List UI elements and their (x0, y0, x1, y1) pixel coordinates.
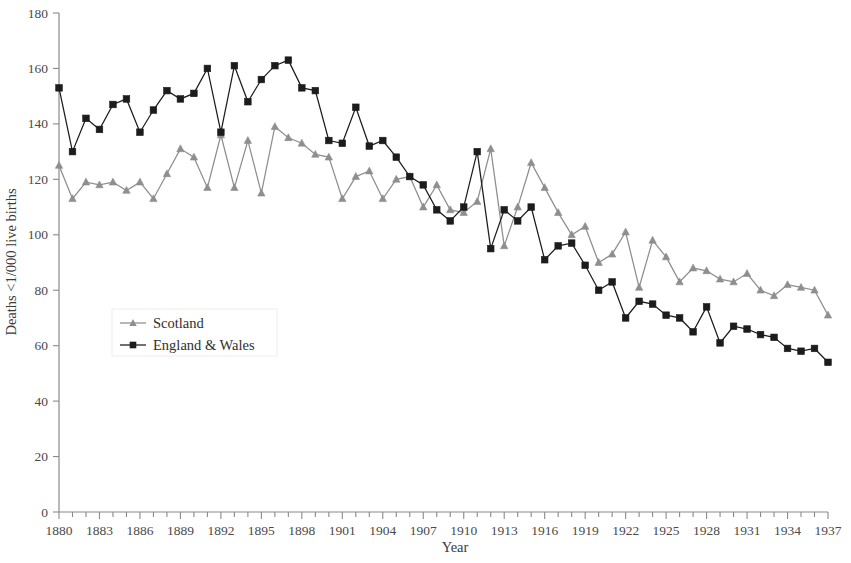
data-point (568, 231, 575, 238)
data-point (528, 204, 535, 211)
data-point (528, 159, 535, 166)
data-point (231, 62, 238, 69)
y-tick-label: 180 (28, 6, 49, 21)
x-tick-label: 1892 (207, 523, 234, 538)
legend-label: England & Wales (153, 337, 255, 353)
y-tick-label: 40 (35, 394, 49, 409)
x-tick-label: 1904 (369, 523, 396, 538)
data-point (622, 228, 629, 235)
data-point (541, 184, 548, 191)
y-tick-label: 20 (35, 449, 49, 464)
data-point (406, 173, 413, 180)
data-point (825, 359, 832, 366)
x-tick-label: 1883 (86, 523, 113, 538)
data-point (487, 245, 494, 252)
data-point (555, 243, 562, 250)
data-point (474, 148, 481, 155)
data-point (608, 250, 615, 257)
data-point (824, 311, 831, 318)
data-point (474, 198, 481, 205)
data-point (622, 315, 629, 322)
data-point (609, 279, 616, 286)
data-point (501, 207, 508, 214)
data-point (339, 140, 346, 147)
data-point (595, 259, 602, 266)
legend-label: Scotland (153, 315, 204, 331)
data-point (676, 315, 683, 322)
data-point (353, 104, 360, 111)
x-tick-label: 1880 (46, 523, 73, 538)
data-point (190, 153, 197, 160)
data-point (69, 148, 76, 155)
data-point (447, 206, 454, 213)
x-tick-label: 1898 (288, 523, 315, 538)
data-point (366, 143, 373, 150)
data-point (555, 209, 562, 216)
x-tick-label: 1913 (491, 523, 518, 538)
y-tick-label: 160 (28, 61, 49, 76)
data-point (231, 184, 238, 191)
data-point (204, 184, 211, 191)
data-point (82, 178, 89, 185)
data-point (299, 85, 306, 92)
y-tick-label: 100 (28, 227, 49, 242)
data-point (218, 129, 225, 136)
data-point (690, 329, 697, 336)
data-point (285, 57, 292, 64)
data-point (244, 137, 251, 144)
data-point (393, 154, 400, 161)
chart-container: 020406080100120140160180 188018831886188… (0, 0, 851, 563)
data-point (312, 150, 319, 157)
infant-mortality-line-chart: 020406080100120140160180 188018831886188… (0, 0, 851, 563)
data-point (420, 203, 427, 210)
legend-square-marker-icon (130, 342, 137, 349)
data-point (420, 182, 427, 189)
x-axis-ticks (59, 512, 828, 519)
data-point (285, 134, 292, 141)
data-point (272, 62, 279, 69)
x-tick-label: 1934 (774, 523, 801, 538)
data-point (96, 126, 103, 133)
x-tick-label: 1886 (126, 523, 153, 538)
data-point (514, 218, 521, 225)
data-point (83, 115, 90, 122)
data-point (56, 85, 63, 92)
data-point (514, 203, 521, 210)
data-point (635, 283, 642, 290)
data-point (744, 326, 751, 333)
data-point (582, 262, 589, 269)
data-point (150, 107, 157, 114)
data-point (811, 345, 818, 352)
x-axis-title: Year (442, 539, 469, 555)
axes: 020406080100120140160180 188018831886188… (28, 6, 842, 539)
y-tick-label: 60 (35, 338, 49, 353)
data-point (123, 96, 130, 103)
y-axis-title: Deaths <1/000 live births (3, 188, 19, 335)
data-point (123, 186, 130, 193)
data-point (757, 331, 764, 338)
x-tick-label: 1925 (653, 523, 680, 538)
data-point (636, 298, 643, 305)
data-point (716, 275, 723, 282)
data-point (460, 204, 467, 211)
y-tick-label: 120 (28, 172, 49, 187)
data-point (204, 65, 211, 72)
data-point (271, 123, 278, 130)
data-point (663, 312, 670, 319)
y-tick-label: 140 (28, 116, 49, 131)
data-point (312, 87, 319, 94)
data-point (730, 323, 737, 330)
data-point (366, 167, 373, 174)
data-point (784, 345, 791, 352)
data-point (326, 137, 333, 144)
x-tick-label: 1907 (410, 523, 437, 538)
data-point (649, 301, 656, 308)
data-point (649, 236, 656, 243)
data-point (177, 96, 184, 103)
x-tick-label: 1901 (329, 523, 356, 538)
data-point (55, 161, 62, 168)
x-tick-label: 1931 (734, 523, 761, 538)
data-point (541, 256, 548, 263)
y-axis-tick-labels: 020406080100120140160180 (28, 6, 49, 520)
x-tick-label: 1889 (167, 523, 194, 538)
